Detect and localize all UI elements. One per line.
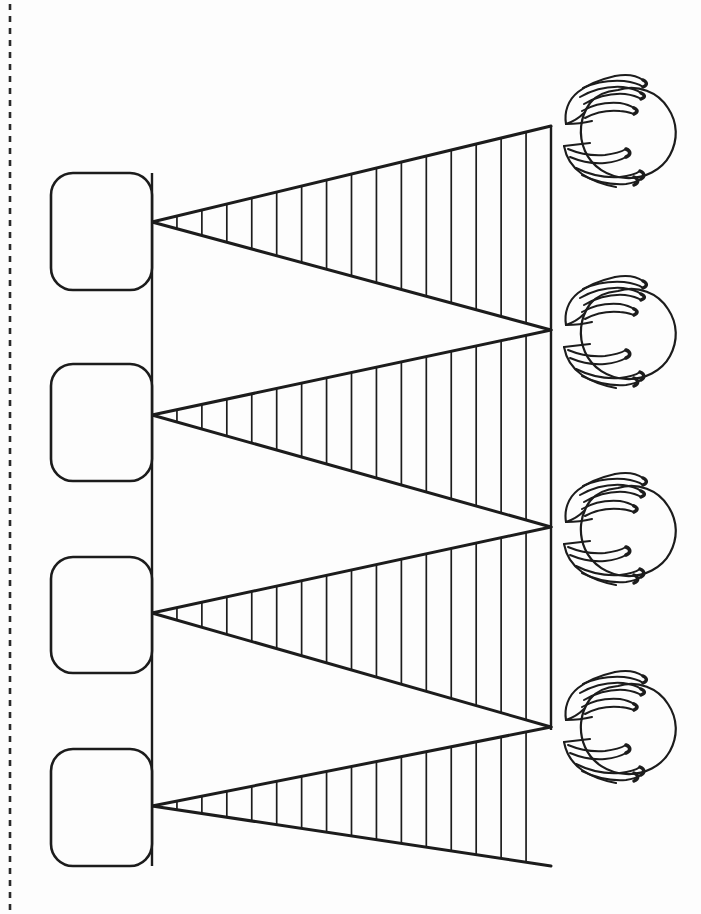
worksheet-page <box>0 0 701 914</box>
answer-box-4[interactable] <box>51 749 152 866</box>
answer-box-3[interactable] <box>51 557 152 673</box>
answer-box-1[interactable] <box>51 173 152 290</box>
answer-box-2[interactable] <box>51 364 152 481</box>
worksheet-canvas <box>0 0 701 914</box>
